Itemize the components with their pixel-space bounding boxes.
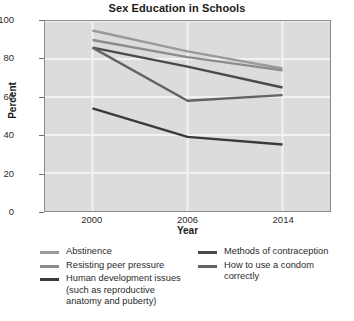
legend-label-how-to-use-a-condom-correctly-line2: correctly bbox=[198, 271, 354, 283]
legend-swatch-resisting-peer-pressure bbox=[40, 265, 59, 268]
legend-item-resisting-peer-pressure: Resisting peer pressure bbox=[40, 260, 200, 272]
x-tick-label: 2006 bbox=[163, 214, 213, 225]
y-tick-label: 100 bbox=[0, 14, 14, 25]
legend-swatch-how-to-use-a-condom-correctly bbox=[198, 265, 217, 268]
legend-label-how-to-use-a-condom-correctly: How to use a condom bbox=[198, 260, 354, 272]
x-axis-label: Year bbox=[44, 225, 331, 236]
chart-container: Sex Education in Schools Percent 0204060… bbox=[0, 0, 354, 321]
legend-item-abstinence: Abstinence bbox=[40, 246, 200, 258]
legend-swatch-methods-of-contraception bbox=[198, 251, 217, 254]
legend-label-human-development-issues: Human development issues bbox=[40, 273, 200, 285]
chart-title: Sex Education in Schools bbox=[0, 2, 354, 14]
y-tick-label: 0 bbox=[0, 206, 14, 217]
plot-svg bbox=[45, 21, 330, 211]
plot-area bbox=[44, 20, 331, 212]
legend-label-resisting-peer-pressure: Resisting peer pressure bbox=[40, 260, 200, 272]
legend-column-left: Abstinence Resisting peer pressure Human… bbox=[40, 246, 200, 310]
legend-item-methods-of-contraception: Methods of contraception bbox=[198, 246, 354, 258]
legend-item-how-to-use-a-condom-correctly: How to use a condom correctly bbox=[198, 260, 354, 283]
x-tick-label: 2014 bbox=[258, 214, 308, 225]
legend-label-human-development-issues-line2: (such as reproductive bbox=[40, 285, 200, 297]
y-tick-label: 60 bbox=[0, 91, 14, 102]
y-tick-label: 20 bbox=[0, 168, 14, 179]
legend-label-methods-of-contraception: Methods of contraception bbox=[198, 246, 354, 258]
legend-item-human-development-issues: Human development issues (such as reprod… bbox=[40, 273, 200, 308]
x-tick-label: 2000 bbox=[67, 214, 117, 225]
legend-swatch-abstinence bbox=[40, 251, 59, 254]
chart-legend: Abstinence Resisting peer pressure Human… bbox=[0, 246, 354, 321]
y-tick-mark bbox=[39, 212, 44, 213]
y-tick-label: 80 bbox=[0, 52, 14, 63]
legend-label-human-development-issues-line3: anatomy and puberty) bbox=[40, 296, 200, 308]
y-tick-label: 40 bbox=[0, 129, 14, 140]
legend-column-right: Methods of contraception How to use a co… bbox=[198, 246, 354, 285]
legend-label-abstinence: Abstinence bbox=[40, 246, 200, 258]
legend-swatch-human-development-issues bbox=[40, 278, 59, 281]
